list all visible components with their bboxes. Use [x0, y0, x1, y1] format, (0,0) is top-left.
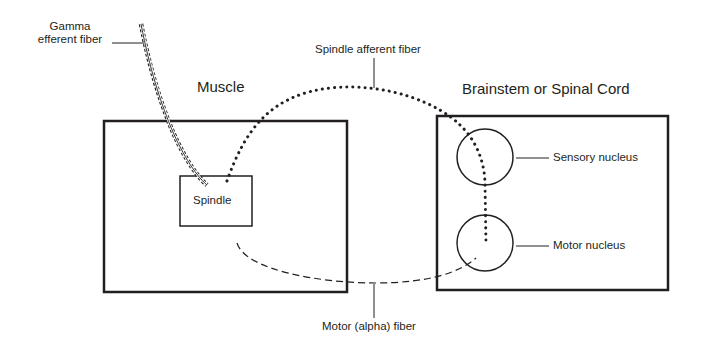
gamma-fiber-label: Gamma efferent fiber [28, 20, 112, 46]
sensory-nucleus-label: Sensory nucleus [553, 151, 638, 164]
gamma-label-line1: Gamma [28, 20, 112, 33]
cns-title: Brainstem or Spinal Cord [462, 80, 630, 97]
motor-nucleus-label: Motor nucleus [553, 239, 625, 252]
gamma-label-line2: efferent fiber [28, 33, 112, 46]
spindle-afferent-label: Spindle afferent fiber [315, 43, 421, 56]
sensory-nucleus-circle [457, 129, 513, 185]
motor-alpha-fiber [237, 243, 476, 283]
motor-alpha-label: Motor (alpha) fiber [322, 320, 416, 333]
gamma-efferent-fiber [141, 24, 207, 185]
spindle-label: Spindle [193, 194, 231, 207]
spindle-afferent-fiber [227, 87, 486, 245]
cns-box [437, 116, 668, 290]
motor-nucleus-circle [457, 215, 513, 271]
muscle-title: Muscle [197, 78, 245, 95]
